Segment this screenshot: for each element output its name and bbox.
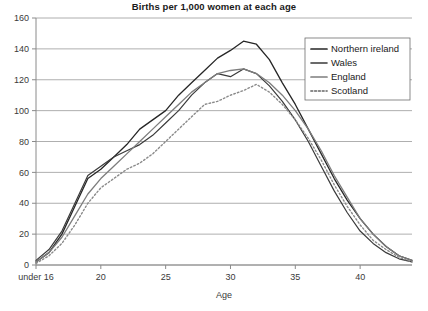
y-tick-label: 20 (19, 229, 29, 239)
x-tick-label: 35 (290, 272, 300, 282)
y-tick-label: 0 (24, 260, 29, 270)
series-line-scotland (36, 84, 412, 263)
chart-container: Births per 1,000 women at each age 02040… (0, 0, 428, 311)
x-tick-label: 20 (96, 272, 106, 282)
x-tick-label: 40 (355, 272, 365, 282)
y-axis-group: 020406080100120140160 (14, 13, 36, 270)
x-axis-group: under 162025303540 (18, 265, 412, 282)
y-tick-label: 120 (14, 75, 29, 85)
y-tick-label: 100 (14, 106, 29, 116)
legend-label-england[interactable]: England (331, 71, 366, 82)
x-tick-label: 25 (161, 272, 171, 282)
y-tick-label: 60 (19, 168, 29, 178)
x-tick-label: 30 (225, 272, 235, 282)
y-tick-label: 140 (14, 44, 29, 54)
legend-label-northern-ireland[interactable]: Northern ireland (331, 43, 399, 54)
legend-label-scotland[interactable]: Scotland (331, 85, 368, 96)
y-tick-label: 80 (19, 137, 29, 147)
x-tick-label: under 16 (18, 272, 54, 282)
legend-label-wales[interactable]: Wales (331, 57, 357, 68)
chart-svg: 020406080100120140160 under 162025303540… (0, 0, 428, 311)
x-axis-label: Age (216, 290, 232, 300)
y-tick-label: 160 (14, 13, 29, 23)
y-tick-label: 40 (19, 198, 29, 208)
legend-group[interactable]: Northern irelandWalesEnglandScotland (305, 38, 410, 100)
